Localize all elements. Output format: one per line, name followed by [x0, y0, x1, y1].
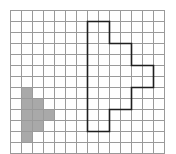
shaded-cell	[21, 87, 32, 98]
shaded-cell	[21, 120, 32, 131]
shaded-cell	[32, 109, 43, 120]
shaded-cell	[32, 98, 43, 109]
shaded-cell	[32, 120, 43, 131]
shaded-cell	[43, 109, 54, 120]
shaded-shape	[21, 87, 54, 142]
shaded-cell	[21, 109, 32, 120]
shaded-cell	[21, 131, 32, 142]
grid-diagram	[0, 0, 176, 154]
shaded-cell	[21, 98, 32, 109]
